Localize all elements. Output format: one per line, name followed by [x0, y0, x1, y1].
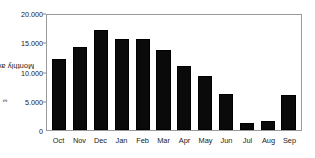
bar-jun[interactable]: [219, 94, 233, 130]
bar-slot: [174, 15, 195, 130]
bar-chart-figure: Monthly average (hm3) 05.00010.00015.000…: [0, 0, 315, 158]
bar-slot: [278, 15, 299, 130]
bar-slot: [49, 15, 70, 130]
x-axis-tick-labels: OctNovDecJanFebMarAprMayJunJulAugSep: [46, 134, 302, 150]
y-axis-tick-label: 20.000: [21, 10, 43, 19]
bar-feb[interactable]: [136, 39, 150, 130]
x-axis-tick-label-jan: Jan: [111, 134, 132, 150]
y-axis-tick-labels: 05.00010.00015.00020.000: [14, 0, 46, 140]
x-axis-tick-label-may: May: [195, 134, 216, 150]
x-axis-tick-label-jun: Jun: [216, 134, 237, 150]
x-axis-tick-label-jul: Jul: [237, 134, 258, 150]
bar-apr[interactable]: [177, 66, 191, 130]
bar-oct[interactable]: [52, 59, 66, 130]
bar-may[interactable]: [198, 76, 212, 130]
bar-series: [47, 15, 301, 130]
bar-slot: [111, 15, 132, 130]
bar-slot: [91, 15, 112, 130]
bar-sep[interactable]: [281, 95, 295, 130]
bar-dec[interactable]: [94, 30, 108, 130]
bar-mar[interactable]: [156, 50, 170, 130]
plot-area: [46, 14, 302, 131]
x-axis-tick-label-feb: Feb: [132, 134, 153, 150]
y-axis-tick-label: 5.000: [25, 97, 43, 106]
bar-nov[interactable]: [73, 47, 87, 130]
bar-slot: [216, 15, 237, 130]
x-axis-tick-label-oct: Oct: [48, 134, 69, 150]
bar-slot: [236, 15, 257, 130]
x-axis-tick-label-mar: Mar: [153, 134, 174, 150]
bar-aug[interactable]: [261, 121, 275, 130]
bar-slot: [70, 15, 91, 130]
bar-jan[interactable]: [115, 39, 129, 130]
x-axis-tick-label-nov: Nov: [69, 134, 90, 150]
bar-slot: [195, 15, 216, 130]
y-axis-tick-label: 15.000: [21, 39, 43, 48]
y-axis-tick-label: 0: [39, 127, 43, 136]
x-axis-tick-label-dec: Dec: [90, 134, 111, 150]
bar-slot: [132, 15, 153, 130]
y-axis-tick-label: 10.000: [21, 68, 43, 77]
x-axis-tick-label-apr: Apr: [174, 134, 195, 150]
bar-slot: [153, 15, 174, 130]
x-axis-tick-label-sep: Sep: [279, 134, 300, 150]
bar-slot: [257, 15, 278, 130]
bar-jul[interactable]: [240, 123, 254, 130]
y-axis-title-superscript: 3: [2, 99, 8, 102]
x-axis-tick-label-aug: Aug: [258, 134, 279, 150]
